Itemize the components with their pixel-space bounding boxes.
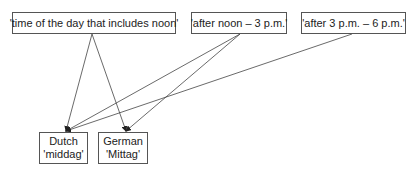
word-box-german: German 'Mittag' bbox=[98, 132, 148, 164]
word-box-dutch: Dutch 'middag' bbox=[39, 132, 88, 164]
meaning-label: 'time of the day that includes noon' bbox=[10, 17, 179, 30]
word-label: 'middag' bbox=[43, 148, 83, 161]
meaning-label: 'after noon – 3 p.m.' bbox=[191, 17, 288, 30]
word-label: 'Mittag' bbox=[106, 148, 140, 161]
language-label: German bbox=[103, 135, 143, 148]
edge-m2-german bbox=[126, 34, 240, 131]
meaning-label: 'after 3 p.m. – 6 p.m.' bbox=[302, 17, 405, 30]
meaning-box-3pm-to-6pm: 'after 3 p.m. – 6 p.m.' bbox=[301, 12, 406, 34]
language-label: Dutch bbox=[49, 135, 78, 148]
meaning-box-noon-to-3pm: 'after noon – 3 p.m.' bbox=[191, 12, 287, 34]
edge-m1-dutch bbox=[66, 34, 92, 131]
meaning-box-noon-period: 'time of the day that includes noon' bbox=[12, 12, 176, 34]
edge-m2-dutch bbox=[66, 34, 240, 131]
